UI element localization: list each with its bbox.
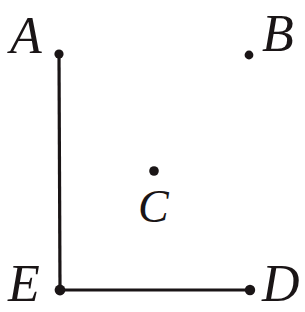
point-d-label: D — [262, 258, 300, 310]
point-e-dot — [55, 285, 66, 296]
segment-ea — [59, 54, 60, 290]
geometry-figure: A B C D E — [0, 0, 305, 312]
points-group — [54, 49, 255, 295]
point-c-label: C — [138, 184, 169, 230]
point-b-label: B — [262, 8, 294, 60]
figure-canvas — [0, 0, 305, 312]
point-a-dot — [54, 49, 63, 58]
point-b-dot — [245, 51, 254, 60]
point-e-label: E — [8, 258, 40, 310]
point-d-dot — [245, 285, 255, 295]
point-a-label: A — [10, 10, 42, 62]
point-c-dot — [149, 166, 159, 176]
